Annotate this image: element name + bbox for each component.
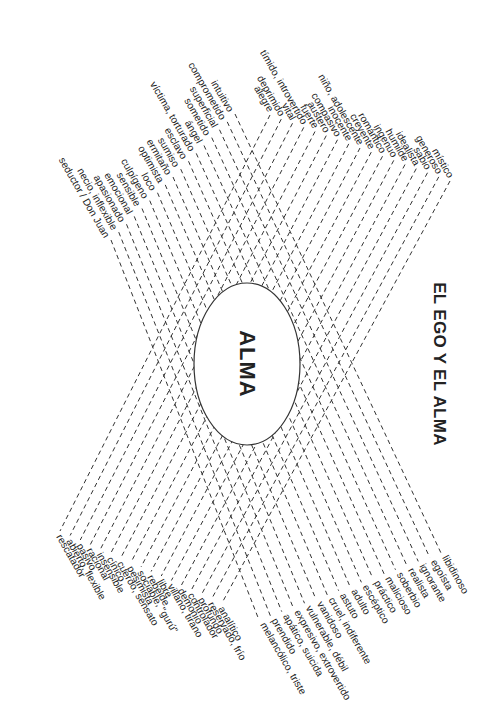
- diagram-canvas: intuitivocomprometidosuperficialsometido…: [0, 0, 491, 721]
- ego-alma-diagram: intuitivocomprometidosuperficialsometido…: [0, 0, 491, 721]
- center-label: ALMA: [235, 330, 260, 398]
- page-title: EL EGO Y EL ALMA: [430, 282, 449, 446]
